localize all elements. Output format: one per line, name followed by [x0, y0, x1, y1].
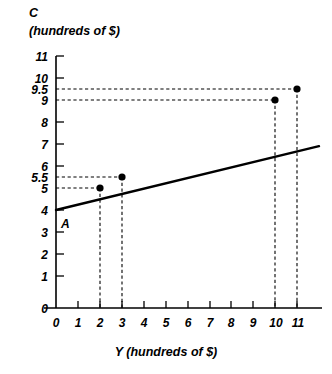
y-tick-label-8: 8: [41, 116, 48, 130]
y-tick-label-9: 9: [41, 94, 48, 108]
consumption-function-chart: C (hundreds of $) 11 10 9.5 9 8 7: [0, 0, 332, 374]
y-tick-label-11: 11: [36, 50, 49, 64]
x-tick-label-0: 0: [53, 316, 60, 330]
x-tick-label-2: 2: [96, 316, 104, 330]
y-tick-label-0: 0: [41, 302, 48, 316]
x-tick-label-6: 6: [185, 316, 192, 330]
x-tick-label-10: 10: [269, 316, 283, 330]
y-axis-units: (hundreds of $): [29, 24, 120, 38]
x-axis-title: Y (hundreds of $): [115, 345, 218, 359]
chart-canvas: C (hundreds of $) 11 10 9.5 9 8 7: [0, 0, 332, 374]
y-tick-label-7: 7: [41, 138, 49, 152]
data-point-3-5-5: [118, 173, 125, 180]
x-tick-label-4: 4: [140, 316, 148, 330]
y-tick-label-3: 3: [41, 226, 48, 240]
y-axis-title: C: [29, 6, 39, 20]
y-tick-label-1: 1: [41, 270, 48, 284]
x-tick-label-5: 5: [163, 316, 170, 330]
x-tick-label-3: 3: [119, 316, 126, 330]
y-tick-label-2: 2: [40, 248, 48, 262]
intercept-label-a: A: [60, 217, 70, 231]
x-tick-label-9: 9: [250, 316, 257, 330]
data-point-11-9-5: [293, 85, 300, 92]
x-tick-label-8: 8: [228, 316, 235, 330]
data-point-10-9: [271, 96, 278, 103]
x-tick-label-11: 11: [292, 316, 305, 330]
x-tick-label-7: 7: [207, 316, 215, 330]
y-tick-label-4: 4: [40, 204, 48, 218]
x-tick-label-1: 1: [75, 316, 82, 330]
data-point-2-5: [96, 184, 103, 191]
y-tick-label-5: 5: [41, 182, 48, 196]
data-line-consumption: [56, 146, 319, 210]
